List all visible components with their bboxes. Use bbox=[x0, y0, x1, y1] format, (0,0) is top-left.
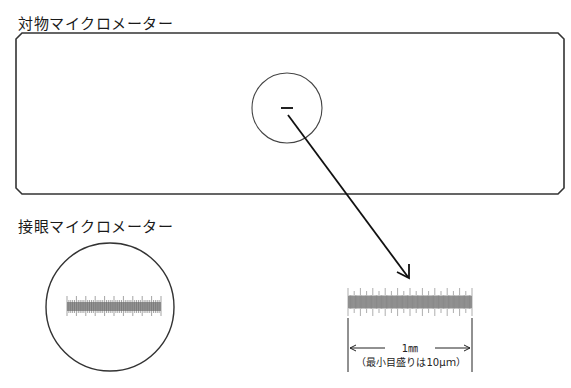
objective-micrometer-slide bbox=[16, 33, 564, 194]
eyepiece-scale bbox=[67, 296, 161, 316]
min-division-note: （最小目盛りは10μｍ） bbox=[350, 354, 472, 369]
scale-length-label: 1㎜ bbox=[385, 340, 435, 355]
objective-scale-magnified bbox=[348, 288, 472, 316]
figure-caption-clipped bbox=[100, 383, 400, 388]
slide-center-circle bbox=[252, 73, 322, 143]
magnify-arrow bbox=[288, 115, 409, 278]
